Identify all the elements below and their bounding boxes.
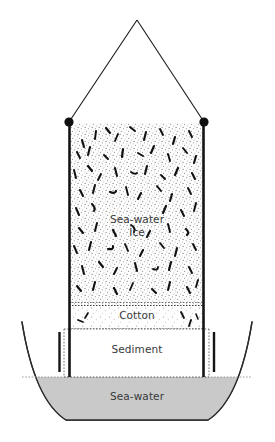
suspension-lines	[69, 20, 204, 122]
diagram-canvas	[0, 0, 275, 442]
cotton-layer	[69, 303, 204, 330]
basin-water-fill	[18, 377, 258, 425]
figure-diagram: Sea-water Ice Cotton Sediment Sea-water	[0, 0, 275, 442]
sediment-layer	[71, 329, 202, 377]
sea-water-ice-layer	[71, 123, 202, 305]
